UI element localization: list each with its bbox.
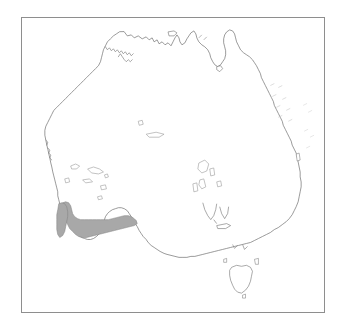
- figure-root: [0, 0, 343, 326]
- fraser-island: [296, 153, 300, 161]
- range-west-lobe: [57, 203, 68, 238]
- tasmania-group: [224, 258, 259, 298]
- offshore-faint-marks: [303, 103, 314, 148]
- king-island: [224, 258, 227, 262]
- flinders-island: [254, 258, 258, 264]
- melville-island: [168, 31, 177, 36]
- map-frame: [21, 17, 325, 313]
- wessel-islands: [199, 35, 207, 40]
- offshore-marks-group: [303, 103, 314, 148]
- australia-map: [22, 18, 324, 312]
- wilsons-promontory: [243, 244, 248, 249]
- bruny-island: [243, 294, 246, 298]
- tasmania-outline: [230, 265, 253, 293]
